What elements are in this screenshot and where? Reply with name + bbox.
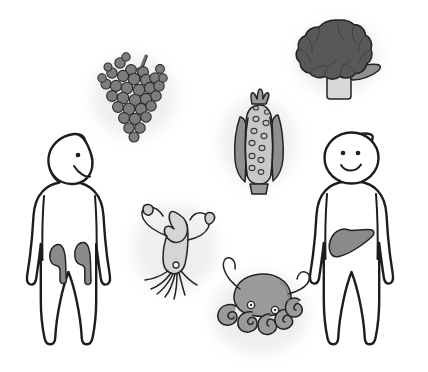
illustration-canvas: .ol { stroke:#1d1d1d; stroke-linecap:rou… [0,0,428,372]
octopus-eye-right-pupil [274,309,276,311]
squid-tentacle-tip-left [143,204,153,215]
octopus-eye-left-pupil [250,304,252,306]
left-person-eye [76,153,81,158]
squid-eye [173,262,179,268]
right-person-eye-right [356,151,361,156]
squid-tentacle-tip-right [205,212,215,224]
corn-base [250,184,268,194]
right-person-head [325,133,379,184]
right-person-eye-left [341,151,346,156]
illustration-svg: .ol { stroke:#1d1d1d; stroke-linecap:rou… [0,0,428,372]
